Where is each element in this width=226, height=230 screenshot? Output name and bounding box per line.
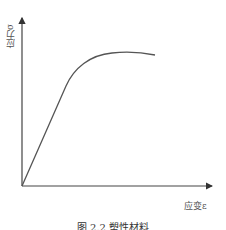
y-axis-label: 应力σ [3, 16, 19, 56]
stress-strain-chart [0, 0, 226, 230]
figure-caption: 图 2.2 塑性材料 [0, 219, 226, 230]
stress-strain-curve [22, 52, 155, 186]
x-axis-label: 应变ε [184, 199, 207, 212]
